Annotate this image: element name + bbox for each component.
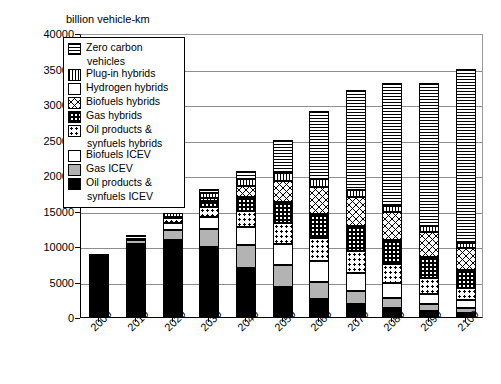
legend-swatch-icon [68,178,81,190]
bar-segment [236,245,256,268]
bar-segment [199,198,219,201]
bar-2100 [456,33,476,317]
bar-segment [419,83,439,226]
legend-item: Gas hybrids [68,110,181,123]
bar-segment [273,223,293,244]
bar-segment [199,207,219,217]
legend-item: Biofuels hybrids [68,96,181,109]
bar-segment [346,251,366,273]
bar-segment [199,201,219,207]
bar-segment [126,238,146,240]
bar-segment [199,229,219,247]
bar-segment [382,83,402,206]
bar-segment [346,90,366,190]
legend-swatch-icon [68,111,81,123]
legend-item-label: Zero carbon [86,42,143,54]
legend-item: Gas ICEV [68,163,181,176]
bar-segment [382,264,402,283]
bar-segment [273,173,293,181]
legend-swatch-icon [68,164,81,176]
bar-2060 [309,33,329,317]
bar-segment [89,254,109,317]
legend-item: Biofuels ICEV [68,149,181,162]
legend-swatch-icon [68,150,81,162]
y-tick-label: 5000 [0,277,74,289]
bar-2030 [199,33,219,317]
legend-item: Hydrogen hybrids [68,82,181,95]
bar-segment [273,265,293,287]
bar-segment [382,298,402,308]
bar-segment [382,212,402,240]
bar-segment [346,273,366,291]
legend-item: Plug-in hybrids [68,68,181,81]
legend-swatch-icon [68,69,81,81]
bar-2090 [419,33,439,317]
legend-item-label: Biofuels ICEV [86,149,151,161]
bar-segment [309,238,329,261]
legend-swatch-icon [68,43,81,55]
legend-item-label-line2: vehicles [87,56,181,68]
bar-segment [163,230,183,241]
bar-segment [382,206,402,212]
bar-segment [346,226,366,251]
bar-segment [163,213,183,217]
bar-segment [419,278,439,294]
bar-segment [126,240,146,244]
legend-item-label: Biofuels hybrids [86,96,160,108]
bar-segment [309,111,329,179]
bar-segment [346,291,366,304]
legend-item-label: Gas hybrids [86,110,142,122]
bar-segment [199,217,219,229]
y-tick-label: 10000 [0,241,74,253]
bar-segment [273,202,293,223]
bar-segment [273,244,293,265]
bar-segment [419,226,439,232]
y-tick-mark [75,318,80,319]
bar-segment [236,179,256,186]
bar-segment [456,270,476,288]
bar-segment [456,248,476,270]
bar-segment [236,211,256,227]
legend-item-label: Gas ICEV [86,163,133,175]
legend: Zero carbonvehiclesPlug-in hybridsHydrog… [63,37,185,208]
chart-figure: billion vehicle-km 050001000015000200002… [0,0,501,384]
legend-item: Zero carbon [68,42,181,55]
bar-segment [309,214,329,238]
bar-segment [309,282,329,300]
bar-segment [126,244,146,317]
legend-item-label: Oil products & [86,124,152,136]
bar-segment [456,288,476,300]
legend-swatch-icon [68,125,81,137]
bar-segment [126,235,146,237]
bar-segment [199,189,219,193]
legend-item-label-line2: synfuels ICEV [87,191,181,203]
legend-item: Oil products & [68,124,181,137]
bar-2080 [382,33,402,317]
bar-segment [382,283,402,298]
bar-segment [163,218,183,223]
bar-segment [419,257,439,278]
bar-segment [236,186,256,197]
bar-segment [199,193,219,199]
y-tick-label: 0 [0,312,74,324]
bar-segment [273,140,293,173]
bar-segment [419,232,439,258]
bar-segment [309,179,329,187]
bar-segment [199,247,219,317]
bar-segment [456,243,476,248]
bar-2050 [273,33,293,317]
bar-segment [346,190,366,197]
bar-segment [273,181,293,202]
legend-item-label: Plug-in hybrids [86,68,155,80]
bar-segment [419,294,439,305]
bar-segment [309,261,329,282]
bar-segment [163,223,183,229]
y-axis-unit-label: billion vehicle-km [66,13,150,25]
bar-2070 [346,33,366,317]
legend-item: Oil products & [68,177,181,190]
legend-swatch-icon [68,97,81,109]
legend-item-label: Oil products & [86,177,152,189]
bar-segment [456,300,476,308]
legend-item-label: Hydrogen hybrids [86,82,168,94]
bar-segment [163,240,183,317]
